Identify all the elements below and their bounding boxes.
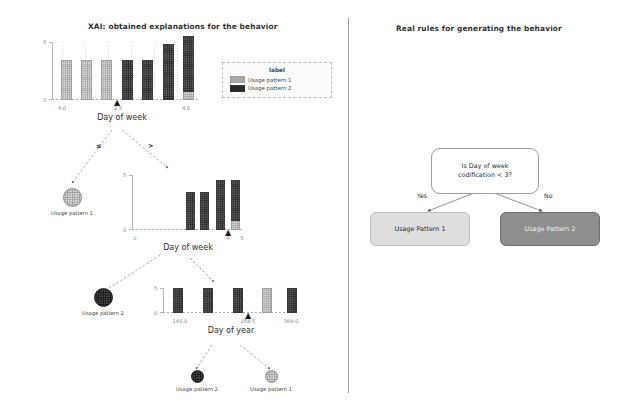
bar — [186, 192, 195, 230]
legend: label Usage pattern 1 Usage pattern 2 — [222, 62, 332, 98]
plot-area — [132, 175, 244, 230]
bar — [231, 180, 240, 221]
leaf-label: Usage pattern 1 — [34, 210, 110, 216]
leaf-usage-pattern-2-mid: Usage pattern 2 — [64, 288, 142, 316]
right-leaf-label: Usage Pattern 2 — [524, 225, 575, 233]
bar — [173, 288, 183, 313]
leaf-usage-pattern-1-bottom: Usage pattern 1 — [232, 370, 310, 392]
x-tick: 369.0 — [284, 318, 299, 324]
decision-line-1: Is Day of week — [462, 162, 509, 170]
legend-label: Usage pattern 1 — [248, 77, 291, 83]
bar — [287, 288, 297, 313]
bar — [163, 44, 174, 100]
legend-item-usage-pattern-1: Usage pattern 1 — [230, 76, 324, 83]
y-tick-top: 5 — [123, 172, 126, 178]
bar — [203, 288, 213, 313]
plot-area — [52, 42, 200, 100]
x-axis-label: Day of week — [97, 113, 147, 122]
decision-line-2: codification < 3? — [458, 171, 512, 179]
right-panel: Real rules for generating the behavior I… — [352, 0, 626, 411]
left-panel: XAI: obtained explanations for the behav… — [0, 0, 348, 411]
bar — [183, 36, 194, 92]
x-tick: 2.5 — [114, 105, 122, 111]
chart-day-of-week-root: 5 0 ▲ 4.0 2.5 4.0 Day of week — [52, 42, 200, 100]
bar — [216, 180, 225, 230]
y-tick-top: 5 — [43, 39, 46, 45]
bar — [101, 60, 112, 100]
bar — [122, 60, 133, 100]
right-leaf-label: Usage Pattern 1 — [394, 225, 445, 233]
bar — [262, 288, 272, 313]
chart-day-of-year: 5 0 ▲ 140.0 258.5 369.0 Day of year — [163, 288, 298, 313]
usage-pattern-2-circle-icon — [94, 288, 113, 307]
x-tick: 4.0 — [182, 105, 190, 111]
leaf-label: Usage pattern 2 — [64, 310, 142, 316]
left-panel-title: XAI: obtained explanations for the behav… — [88, 22, 277, 31]
bar — [142, 60, 153, 100]
y-tick-bottom: 0 — [43, 97, 46, 103]
decision-node-text: Is Day of week codification < 3? — [453, 162, 517, 181]
split-label-right: > — [148, 142, 154, 150]
legend-swatch-icon — [230, 85, 245, 92]
leaf-usage-pattern-1-top: Usage pattern 1 — [34, 188, 110, 216]
usage-pattern-2-circle-icon — [191, 370, 204, 383]
x-axis-label: Day of week — [163, 243, 213, 252]
x-axis-label: Day of year — [208, 326, 254, 335]
y-tick-bottom: 0 — [154, 310, 157, 316]
decision-node-day-of-week[interactable]: Is Day of week codification < 3? — [431, 148, 539, 194]
right-tree-edges — [352, 0, 626, 411]
legend-item-usage-pattern-2: Usage pattern 2 — [230, 85, 324, 92]
x-tick: 0 — [133, 235, 136, 241]
x-tick: 4.0 — [58, 105, 66, 111]
branch-label-no: No — [544, 192, 552, 199]
right-panel-title: Real rules for generating the behavior — [396, 24, 562, 33]
split-label-left: ≤ — [96, 142, 102, 150]
x-tick: 140.0 — [173, 318, 188, 324]
legend-title: label — [230, 67, 324, 73]
panel-divider — [348, 18, 349, 393]
bar — [81, 60, 92, 100]
x-tick: 5 — [240, 235, 243, 241]
chart-day-of-week-right: 5 0 ▲ 0 4 5 Day of week — [132, 175, 244, 230]
y-tick-top: 5 — [154, 285, 157, 291]
branch-label-yes: Yes — [417, 192, 427, 199]
right-leaf-usage-pattern-2[interactable]: Usage Pattern 2 — [500, 212, 600, 246]
plot-area — [163, 288, 298, 313]
bar — [233, 288, 243, 313]
leaf-label: Usage pattern 2 — [158, 386, 236, 392]
usage-pattern-1-circle-icon — [265, 370, 278, 383]
legend-label: Usage pattern 2 — [248, 85, 291, 91]
x-tick: 258.5 — [241, 318, 256, 324]
x-tick: 4 — [226, 235, 229, 241]
leaf-usage-pattern-2-bottom: Usage pattern 2 — [158, 370, 236, 392]
legend-swatch-icon — [230, 76, 245, 83]
bar — [61, 60, 72, 100]
leaf-label: Usage pattern 1 — [232, 386, 310, 392]
y-tick-bottom: 0 — [123, 227, 126, 233]
usage-pattern-1-circle-icon — [63, 188, 82, 207]
right-leaf-usage-pattern-1[interactable]: Usage Pattern 1 — [370, 212, 470, 246]
bar — [200, 192, 209, 230]
